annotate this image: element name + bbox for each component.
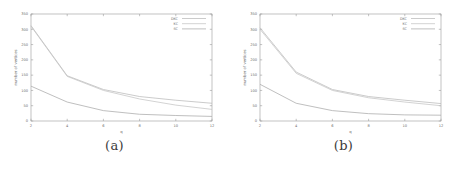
x-tick-label: 8 — [367, 124, 370, 128]
figure-panel-a: 05010015020025030035024681012qnumber of … — [0, 0, 229, 169]
figure-panel-b: 05010015020025030035024681012qnumber of … — [229, 0, 458, 169]
y-tick-label: 150 — [250, 73, 258, 77]
x-tick-label: 8 — [138, 124, 141, 128]
y-tick-label: 50 — [23, 104, 28, 108]
x-axis-title: q — [120, 129, 123, 134]
y-tick-label: 50 — [252, 104, 257, 108]
y-tick-label: 250 — [250, 43, 258, 47]
x-tick-label: 12 — [439, 124, 444, 128]
plot-area-b: 05010015020025030035024681012qnumber of … — [229, 0, 458, 140]
line-chart-a: 05010015020025030035024681012qnumber of … — [0, 0, 229, 140]
x-tick-label: 10 — [403, 124, 408, 128]
legend-label-sc: SC — [173, 27, 178, 31]
x-tick-label: 4 — [295, 124, 298, 128]
legend-label-sc: SC — [402, 27, 407, 31]
x-tick-label: 10 — [174, 124, 179, 128]
x-tick-label: 12 — [210, 124, 215, 128]
plot-area-a: 05010015020025030035024681012qnumber of … — [0, 0, 229, 140]
figure-sheet: 05010015020025030035024681012qnumber of … — [0, 0, 458, 169]
legend-label-dkc: DKC — [400, 17, 408, 21]
x-tick-label: 2 — [259, 124, 261, 128]
legend-label-kc: KC — [174, 22, 179, 26]
series-line-sc — [260, 84, 441, 115]
y-tick-label: 0 — [26, 119, 29, 123]
y-tick-label: 250 — [21, 43, 29, 47]
y-tick-label: 150 — [21, 73, 29, 77]
x-tick-label: 6 — [331, 124, 334, 128]
panel-caption-a: (a) — [0, 138, 229, 153]
legend-label-dkc: DKC — [171, 17, 179, 21]
x-axis-title: q — [349, 129, 352, 134]
x-tick-label: 4 — [66, 124, 69, 128]
line-chart-b: 05010015020025030035024681012qnumber of … — [229, 0, 458, 140]
series-line-kc — [31, 26, 212, 109]
y-tick-label: 200 — [21, 58, 29, 62]
series-line-dkc — [260, 28, 441, 104]
y-axis-title: number of vertices — [242, 49, 247, 85]
plot-frame — [31, 14, 212, 121]
y-tick-label: 300 — [250, 28, 258, 32]
legend-label-kc: KC — [403, 22, 408, 26]
x-tick-label: 2 — [30, 124, 32, 128]
y-tick-label: 200 — [250, 58, 258, 62]
x-tick-label: 6 — [102, 124, 105, 128]
y-tick-label: 100 — [21, 89, 29, 93]
y-axis-title: number of vertices — [13, 49, 18, 85]
y-tick-label: 100 — [250, 89, 258, 93]
y-tick-label: 300 — [21, 28, 29, 32]
series-line-kc — [260, 29, 441, 105]
y-tick-label: 0 — [255, 119, 258, 123]
panel-caption-b: (b) — [229, 138, 458, 153]
y-tick-label: 350 — [250, 12, 258, 16]
y-tick-label: 350 — [21, 12, 29, 16]
plot-frame — [260, 14, 441, 121]
